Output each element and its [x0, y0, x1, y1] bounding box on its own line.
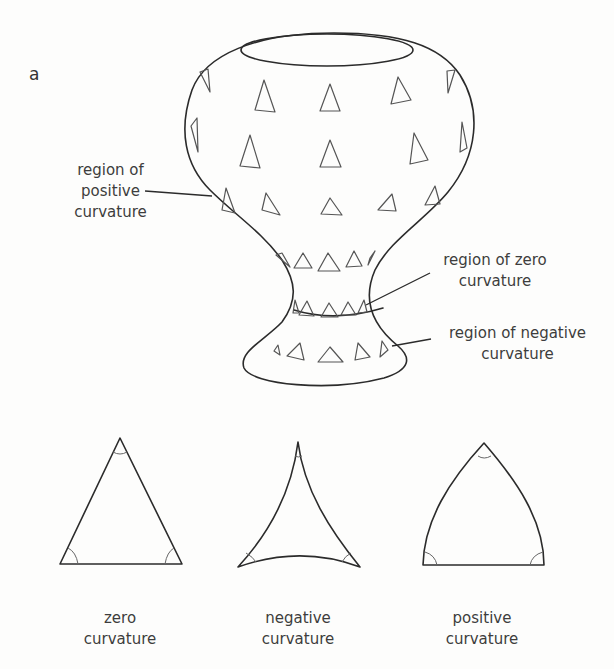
- vase-rim: [241, 34, 413, 66]
- label-zero-curvature: zero curvature: [70, 608, 170, 650]
- label-zero-region: region of zero curvature: [420, 250, 570, 292]
- triangle-positive: [423, 443, 544, 565]
- label-positive-region: region of positive curvature: [58, 160, 163, 223]
- label-positive-curvature: positive curvature: [432, 608, 532, 650]
- triangle-zero: [60, 438, 182, 564]
- neck-band: [294, 308, 383, 316]
- panel-letter: a: [29, 64, 39, 84]
- triangle-negative: [238, 442, 360, 567]
- leader-negative: [392, 339, 431, 346]
- label-negative-curvature: negative curvature: [248, 608, 348, 650]
- label-negative-region: region of negative curvature: [430, 323, 605, 365]
